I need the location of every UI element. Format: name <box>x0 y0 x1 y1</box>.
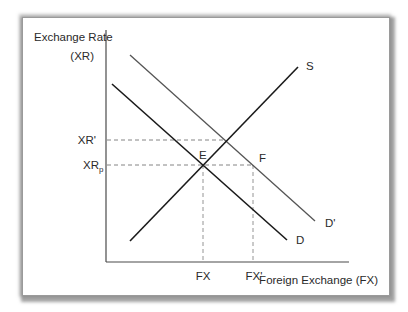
y-tick-xr-p-sub: p <box>99 165 104 174</box>
supply-demand-diagram: Exchange Rate (XR) XR' XRp FX FX' Foreig… <box>0 0 408 312</box>
y-axis-title-line2: (XR) <box>70 50 94 62</box>
y-tick-xr-p-main: XR <box>83 159 99 171</box>
y-axis-title-line1: Exchange Rate <box>34 31 113 43</box>
demand-shifted-curve <box>130 55 315 221</box>
point-f-label: F <box>259 152 266 164</box>
demand-label: D <box>296 234 304 246</box>
supply-label: S <box>306 60 314 72</box>
demand-shifted-label: D' <box>325 217 336 229</box>
supply-curve <box>130 67 298 241</box>
x-axis-title: Foreign Exchange (FX) <box>259 274 378 286</box>
x-tick-fx: FX <box>196 270 211 282</box>
y-tick-xr-p: XRp <box>83 159 104 174</box>
point-e-label: E <box>199 149 207 161</box>
y-tick-xr-prime: XR' <box>78 134 96 146</box>
